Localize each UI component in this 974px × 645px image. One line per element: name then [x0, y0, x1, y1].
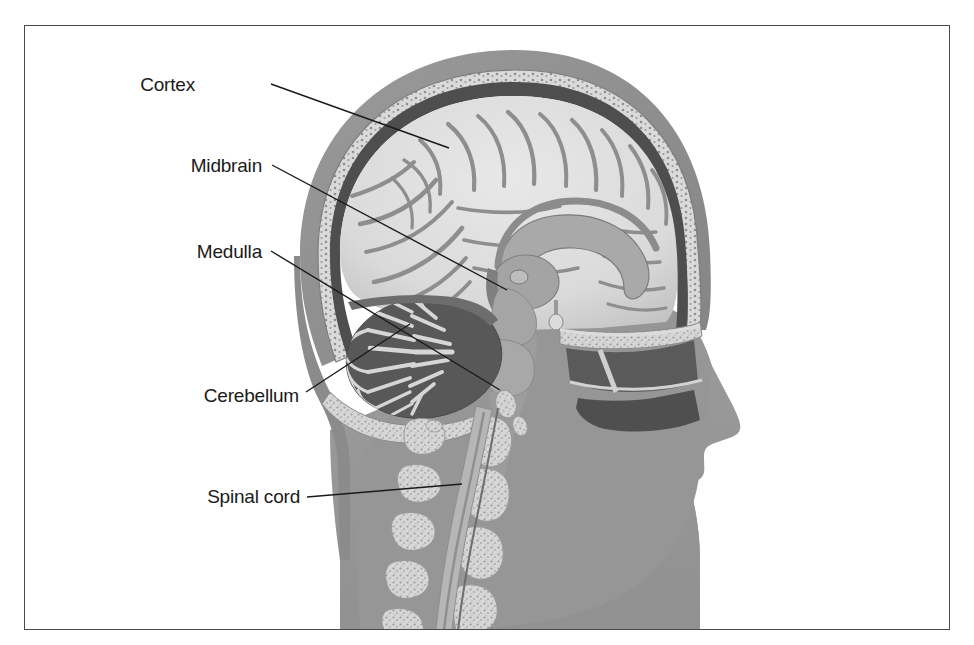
label-text-midbrain: Midbrain: [191, 155, 262, 176]
label-text-cortex: Cortex: [140, 74, 195, 95]
skull-base-sinuses: [560, 322, 702, 432]
pituitary-gland: [549, 314, 563, 330]
head-anatomy-diagram: Cortex Midbrain Medulla Cerebellum Spina: [0, 0, 974, 645]
label-text-spinal-cord: Spinal cord: [207, 486, 300, 507]
label-text-cerebellum: Cerebellum: [204, 385, 299, 406]
thalamic-adhesion: [510, 270, 528, 284]
label-text-medulla: Medulla: [197, 241, 263, 262]
figure-page: Cortex Midbrain Medulla Cerebellum Spina: [0, 0, 974, 645]
